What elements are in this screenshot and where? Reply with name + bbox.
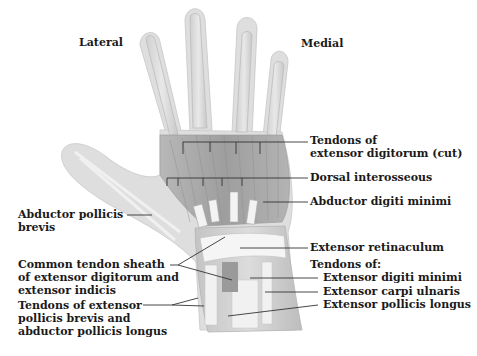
label-tendons-ext-digitorum-line2: extensor digitorum (cut) — [310, 147, 462, 160]
label-dorsal-interosseous: Dorsal interosseous — [310, 171, 432, 184]
label-abductor-pollicis-line1: Abductor pollicis — [18, 208, 123, 221]
label-tendons-epb-line1: Tendons of extensor — [18, 299, 142, 312]
label-medial: Medial — [301, 37, 343, 50]
label-common-sheath-line1: Common tendon sheath — [18, 258, 165, 271]
dark-tendon-sheath — [222, 262, 238, 292]
label-common-sheath-line3: extensor indicis — [18, 284, 116, 297]
label-extensor-carpi-ulnaris: Extensor carpi ulnaris — [323, 285, 460, 298]
hand-anatomy-diagram: Lateral Medial Tendons of extensor digit… — [0, 0, 477, 356]
label-tendons-of: Tendons of: — [310, 258, 381, 271]
label-tendons-ext-digitorum-line1: Tendons of — [310, 134, 377, 147]
label-abductor-pollicis-line2: brevis — [18, 221, 55, 234]
label-abductor-digiti-minimi: Abductor digiti minimi — [310, 195, 451, 208]
label-extensor-digiti-minimi: Extensor digiti minimi — [323, 271, 462, 284]
label-extensor-retinaculum: Extensor retinaculum — [310, 241, 444, 254]
label-common-sheath-line2: of extensor digitorum and — [18, 271, 179, 284]
label-tendons-epb-line3: abductor pollicis longus — [18, 325, 167, 338]
label-extensor-pollicis-longus: Extensor pollicis longus — [323, 298, 471, 311]
label-lateral: Lateral — [79, 36, 123, 49]
label-tendons-epb-line2: pollicis brevis and — [18, 312, 130, 325]
